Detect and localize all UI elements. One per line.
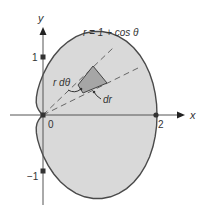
y-tick-minus1: −1	[27, 171, 39, 182]
point-origin	[41, 113, 46, 118]
dr-label: dr	[103, 94, 113, 105]
y-tick-1: 1	[32, 52, 38, 63]
r-dtheta-label: r dθ	[53, 77, 71, 88]
equation-label: r = 1 + cos θ	[83, 27, 139, 38]
y-axis-arrow-icon	[40, 27, 47, 35]
x-axis-arrow-icon	[177, 112, 185, 119]
point-y1	[41, 55, 46, 60]
x-tick-2: 2	[158, 119, 164, 130]
point-y-minus1	[41, 169, 46, 174]
y-axis-label: y	[37, 12, 45, 24]
cardioid-diagram: y x 1 0 2 −1 r = 1 + cos θ r dθ dr	[0, 0, 210, 212]
x-axis-label: x	[189, 109, 196, 121]
origin-label: 0	[48, 119, 54, 130]
point-x2	[153, 112, 158, 117]
